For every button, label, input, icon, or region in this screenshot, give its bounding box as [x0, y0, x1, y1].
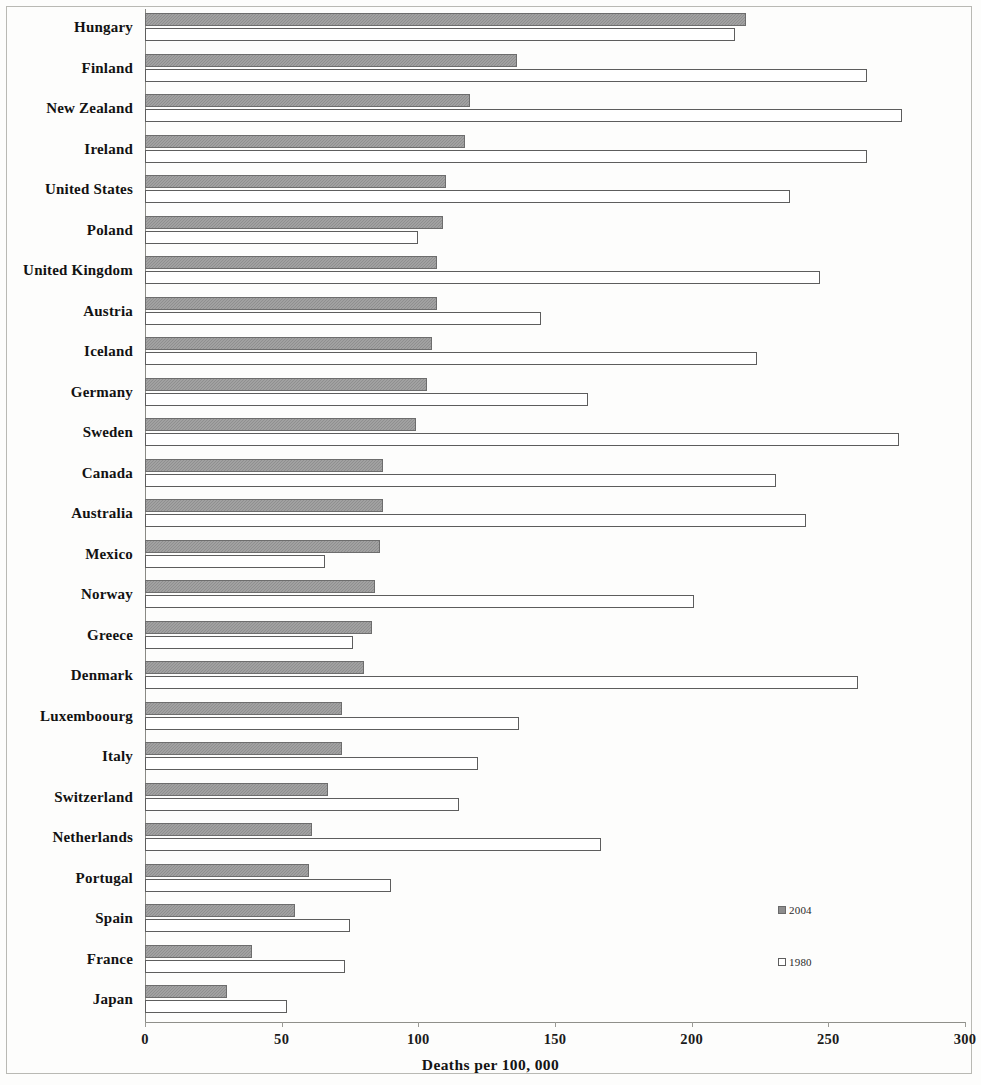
- bar-row: Greece: [0, 617, 981, 658]
- bar-2004: [145, 459, 383, 472]
- bar-row: Mexico: [0, 536, 981, 577]
- bar-2004: [145, 216, 443, 229]
- bar-1980: [145, 231, 418, 244]
- bar-row: Germany: [0, 374, 981, 415]
- category-label: Ireland: [84, 141, 133, 158]
- x-tick-mark: [965, 1022, 966, 1027]
- bar-1980: [145, 150, 867, 163]
- chart-page: HungaryFinlandNew ZealandIrelandUnited S…: [0, 0, 981, 1085]
- bar-1980: [145, 190, 790, 203]
- bar-row: Japan: [0, 981, 981, 1022]
- bar-2004: [145, 135, 465, 148]
- bar-2004: [145, 418, 416, 431]
- category-label: Denmark: [71, 667, 133, 684]
- bar-2004: [145, 54, 517, 67]
- bar-2004: [145, 742, 342, 755]
- x-tick-label: 200: [680, 1031, 703, 1048]
- legend-label-2004: 2004: [789, 904, 812, 916]
- category-label: United Kingdom: [23, 262, 133, 279]
- bar-2004: [145, 256, 437, 269]
- bar-row: Finland: [0, 50, 981, 91]
- bar-1980: [145, 28, 735, 41]
- category-label: Mexico: [85, 546, 133, 563]
- bar-row: Netherlands: [0, 819, 981, 860]
- category-label: Spain: [95, 910, 133, 927]
- bar-1980: [145, 717, 519, 730]
- x-tick-label: 100: [407, 1031, 430, 1048]
- bar-2004: [145, 904, 295, 917]
- bar-2004: [145, 985, 227, 998]
- x-tick-mark: [555, 1022, 556, 1027]
- bar-row: Australia: [0, 495, 981, 536]
- bar-row: New Zealand: [0, 90, 981, 131]
- bar-row: United Kingdom: [0, 252, 981, 293]
- category-label: Germany: [71, 384, 133, 401]
- bar-2004: [145, 702, 342, 715]
- bar-row: Ireland: [0, 131, 981, 172]
- category-label: Switzerland: [54, 789, 133, 806]
- x-tick-mark: [692, 1022, 693, 1027]
- bar-row: Spain: [0, 900, 981, 941]
- bar-row: France: [0, 941, 981, 982]
- bar-2004: [145, 864, 309, 877]
- bar-1980: [145, 676, 858, 689]
- legend-swatch-2004-icon: [778, 906, 786, 914]
- bar-2004: [145, 175, 446, 188]
- bar-row: Luxemboourg: [0, 698, 981, 739]
- category-label: Iceland: [84, 343, 133, 360]
- bar-row: Norway: [0, 576, 981, 617]
- bar-2004: [145, 378, 427, 391]
- x-tick-mark: [418, 1022, 419, 1027]
- category-label: Greece: [87, 627, 133, 644]
- bar-1980: [145, 1000, 287, 1013]
- bar-row: Denmark: [0, 657, 981, 698]
- bar-1980: [145, 352, 757, 365]
- bar-row: Canada: [0, 455, 981, 496]
- category-label: Finland: [82, 60, 133, 77]
- bar-row: Switzerland: [0, 779, 981, 820]
- category-label: Luxemboourg: [40, 708, 133, 725]
- bar-row: Italy: [0, 738, 981, 779]
- bar-1980: [145, 69, 867, 82]
- bar-2004: [145, 499, 383, 512]
- x-tick-label: 0: [141, 1031, 149, 1048]
- bar-2004: [145, 580, 375, 593]
- legend-item-1980: 1980: [778, 955, 812, 968]
- bar-1980: [145, 433, 899, 446]
- bar-2004: [145, 661, 364, 674]
- bar-row: United States: [0, 171, 981, 212]
- bar-2004: [145, 337, 432, 350]
- bar-1980: [145, 838, 601, 851]
- bar-1980: [145, 757, 478, 770]
- bar-2004: [145, 94, 470, 107]
- bar-1980: [145, 312, 541, 325]
- category-label: United States: [45, 181, 133, 198]
- category-label: Poland: [87, 222, 133, 239]
- bar-2004: [145, 783, 328, 796]
- bar-1980: [145, 636, 353, 649]
- bar-row: Austria: [0, 293, 981, 334]
- bar-row: Sweden: [0, 414, 981, 455]
- bar-2004: [145, 540, 380, 553]
- category-label: Norway: [81, 586, 133, 603]
- bar-1980: [145, 960, 345, 973]
- bar-1980: [145, 474, 776, 487]
- x-tick-label: 50: [274, 1031, 289, 1048]
- bar-row: Portugal: [0, 860, 981, 901]
- category-label: Hungary: [74, 19, 133, 36]
- bar-1980: [145, 555, 325, 568]
- bar-chart: HungaryFinlandNew ZealandIrelandUnited S…: [0, 0, 981, 1085]
- x-tick-label: 250: [817, 1031, 840, 1048]
- x-tick-label: 300: [954, 1031, 977, 1048]
- bar-row: Hungary: [0, 9, 981, 50]
- bar-1980: [145, 271, 820, 284]
- bar-1980: [145, 798, 459, 811]
- bar-row: Iceland: [0, 333, 981, 374]
- x-axis-title: Deaths per 100, 000: [0, 1056, 981, 1074]
- bar-2004: [145, 13, 746, 26]
- x-tick-mark: [828, 1022, 829, 1027]
- bar-2004: [145, 297, 437, 310]
- category-label: Netherlands: [52, 829, 133, 846]
- bar-1980: [145, 109, 902, 122]
- x-tick-mark: [282, 1022, 283, 1027]
